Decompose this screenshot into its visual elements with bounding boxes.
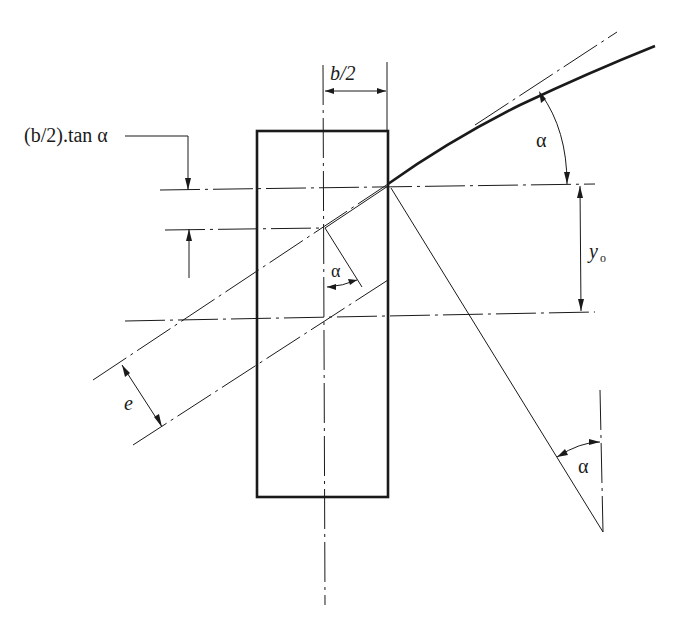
inclined-line-link	[325, 186, 388, 228]
diagram-canvas: b/2 (b/2).tan α α α α y o e	[0, 0, 675, 623]
alpha-center-label: α	[331, 261, 341, 281]
y0-dimension-line	[580, 186, 581, 311]
arrowhead-icon	[185, 178, 191, 190]
e-label: e	[124, 392, 133, 414]
alpha-bottom-label: α	[578, 455, 589, 477]
inclined-line-upper	[93, 184, 388, 380]
arrowhead-icon	[327, 284, 336, 290]
arrowhead-icon	[325, 88, 334, 94]
y0-label: y	[587, 240, 598, 263]
arrowhead-icon	[557, 449, 568, 457]
bottom-horizontal-axis	[125, 312, 595, 321]
tangent-line	[475, 32, 617, 125]
rectangle-section	[257, 131, 388, 497]
y0-subscript: o	[600, 251, 606, 265]
vertical-center-axis	[323, 65, 325, 605]
arrowhead-icon	[578, 299, 584, 311]
alpha-top-label: α	[536, 129, 547, 151]
b2-label: b/2	[330, 62, 356, 84]
arrowhead-icon	[186, 229, 192, 241]
arrowhead-icon	[589, 439, 600, 445]
offset-formula-label: (b/2).tan α	[24, 124, 108, 147]
arrowhead-icon	[348, 279, 357, 285]
arrowhead-icon	[377, 88, 386, 94]
arrowhead-icon	[577, 186, 583, 198]
inclined-line-lower	[133, 280, 388, 445]
top-horizontal-axis	[160, 184, 595, 190]
deflection-curve	[388, 46, 655, 184]
bottom-vertical-reference	[600, 390, 603, 532]
long-diagonal-line	[391, 188, 603, 532]
arrowhead-icon	[564, 172, 570, 184]
